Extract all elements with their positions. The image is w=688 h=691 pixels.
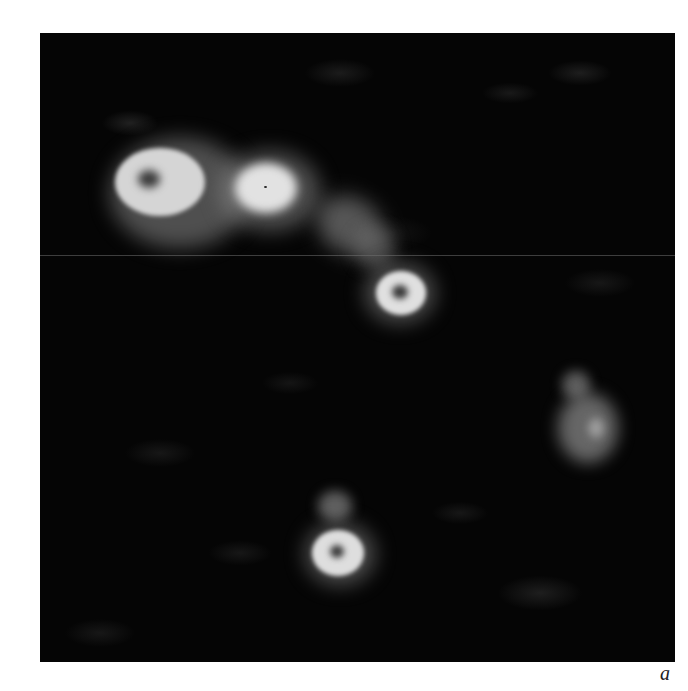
diffuse-bottom-top: [318, 491, 352, 521]
ring-large-top-left-hole: [138, 170, 160, 188]
micrograph-image: [40, 33, 675, 662]
ring-center-hole: [392, 285, 408, 299]
ring-large-top-left: [115, 148, 205, 216]
panel-label: a: [660, 662, 670, 685]
diffuse-chain-lower: [355, 228, 395, 268]
ring-bottom-hole: [330, 545, 344, 558]
blob-top-center-dot: [264, 186, 267, 188]
blob-top-center: [235, 163, 297, 213]
diffuse-right-core: [588, 418, 604, 438]
